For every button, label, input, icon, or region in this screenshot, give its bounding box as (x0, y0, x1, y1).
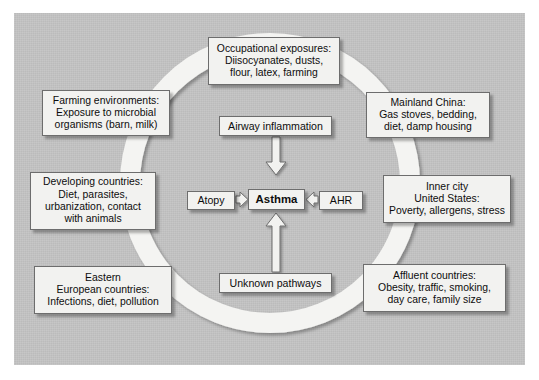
box-line: Unknown pathways (230, 277, 322, 290)
box-line: AHR (330, 194, 352, 207)
box-inner-city-united-states[interactable]: Inner city United States: Poverty, aller… (383, 175, 511, 223)
box-line: United States: (414, 193, 479, 205)
box-line: Diisocyanates, dusts, (225, 55, 323, 67)
box-line: Obesity, traffic, smoking, (378, 282, 491, 294)
box-line: urbanization, contact (45, 201, 141, 213)
box-line: flour, latex, farming (230, 67, 318, 79)
box-line: diet, damp housing (384, 121, 472, 133)
box-farming-environments[interactable]: Farming environments: Exposure to microb… (42, 90, 170, 136)
box-line: Occupational exposures: (217, 43, 331, 55)
box-line: Eastern (85, 272, 121, 284)
box-line: European countries: (57, 284, 150, 296)
box-line: with animals (64, 213, 121, 225)
box-unknown-pathways[interactable]: Unknown pathways (219, 273, 332, 293)
box-asthma[interactable]: Asthma (248, 189, 305, 210)
box-occupational-exposures[interactable]: Occupational exposures: Diisocyanates, d… (208, 37, 340, 85)
box-line: Inner city (426, 181, 468, 193)
box-line: Mainland China: (390, 97, 465, 109)
box-line: Airway inflammation (228, 120, 323, 133)
box-line: Farming environments: (53, 95, 159, 107)
box-line: day care, family size (387, 294, 481, 306)
box-line: Diet, parasites, (58, 189, 127, 201)
box-airway-inflammation[interactable]: Airway inflammation (219, 116, 332, 136)
box-line: Atopy (197, 194, 224, 207)
box-developing-countries[interactable]: Developing countries: Diet, parasites, u… (30, 172, 156, 230)
box-line: Gas stoves, bedding, (379, 109, 477, 121)
box-affluent-countries[interactable]: Affluent countries: Obesity, traffic, sm… (363, 264, 506, 312)
figure-root: Occupational exposures: Diisocyanates, d… (0, 0, 539, 380)
box-line: Developing countries: (43, 176, 143, 188)
box-line: Poverty, allergens, stress (389, 205, 505, 217)
box-line: organisms (barn, milk) (55, 119, 158, 131)
box-line: Exposure to microbial (56, 107, 156, 119)
box-line: Affluent countries: (393, 270, 476, 282)
box-atopy[interactable]: Atopy (187, 191, 235, 210)
box-mainland-china[interactable]: Mainland China: Gas stoves, bedding, die… (366, 92, 490, 138)
box-ahr[interactable]: AHR (319, 191, 363, 210)
box-line: Infections, diet, pollution (47, 296, 158, 308)
box-eastern-european-countries[interactable]: Eastern European countries: Infections, … (34, 266, 172, 314)
box-line: Asthma (256, 193, 298, 206)
